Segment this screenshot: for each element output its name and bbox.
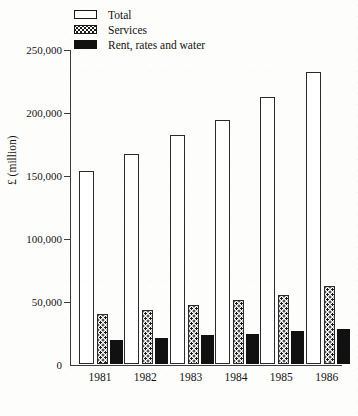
y-tick-label-100000: 100,000	[26, 233, 62, 245]
bar-total-1983	[170, 135, 185, 364]
legend-label-total: Total	[108, 9, 131, 21]
bar-total-1981	[79, 171, 94, 364]
legend-item-total: Total	[74, 8, 205, 21]
y-tick-200000	[64, 113, 70, 114]
legend-label-services: Services	[108, 24, 147, 36]
legend-item-services: Services	[74, 23, 205, 36]
bar-group-1981	[76, 49, 121, 364]
y-tick-label-250000: 250,000	[26, 44, 62, 56]
y-tick-150000	[64, 176, 70, 177]
x-tick-label-1981: 1981	[89, 371, 112, 383]
y-tick-100000	[64, 239, 70, 240]
x-tick-label-1983: 1983	[179, 371, 202, 383]
bar-services-1983	[188, 305, 199, 364]
x-tick-label-1982: 1982	[134, 371, 157, 383]
legend-swatch-services-icon	[74, 25, 97, 34]
legend-swatch-rent-icon	[74, 40, 97, 49]
y-tick-label-50000: 50,000	[32, 296, 62, 308]
bar-services-1985	[278, 295, 289, 364]
y-tick-50000	[64, 302, 70, 303]
y-tick-label-0: 0	[57, 359, 63, 371]
bar-group-1982	[121, 49, 166, 364]
legend-swatch-total-icon	[74, 10, 97, 19]
bar-total-1984	[215, 120, 230, 364]
chart-page: Total Services Rent, rates and water £ (…	[0, 0, 358, 416]
bar-services-1981	[97, 314, 108, 364]
x-tick-label-1985: 1985	[270, 371, 293, 383]
chart-legend: Total Services Rent, rates and water	[74, 8, 205, 53]
bar-group-1984	[212, 49, 257, 364]
bar-total-1986	[306, 72, 321, 364]
y-tick-250000	[64, 50, 70, 51]
bar-services-1982	[142, 310, 153, 364]
bar-group-1983	[167, 49, 212, 364]
bar-group-1986	[303, 49, 348, 364]
bar-total-1982	[124, 154, 139, 364]
bar-rent-1986	[337, 329, 350, 364]
bar-total-1985	[260, 97, 275, 364]
bar-services-1984	[233, 300, 244, 364]
bar-services-1986	[324, 286, 335, 364]
x-tick-label-1986: 1986	[315, 371, 338, 383]
y-tick-label-200000: 200,000	[26, 107, 62, 119]
x-axis-line	[70, 365, 342, 366]
y-axis-line	[70, 50, 71, 366]
y-tick-label-150000: 150,000	[26, 170, 62, 182]
y-axis-title: £ (million)	[6, 135, 18, 185]
bar-group-1985	[257, 49, 302, 364]
x-tick-label-1984: 1984	[225, 371, 248, 383]
plot-area: 250,000 200,000 150,000 100,000 50,000 0…	[70, 50, 342, 365]
